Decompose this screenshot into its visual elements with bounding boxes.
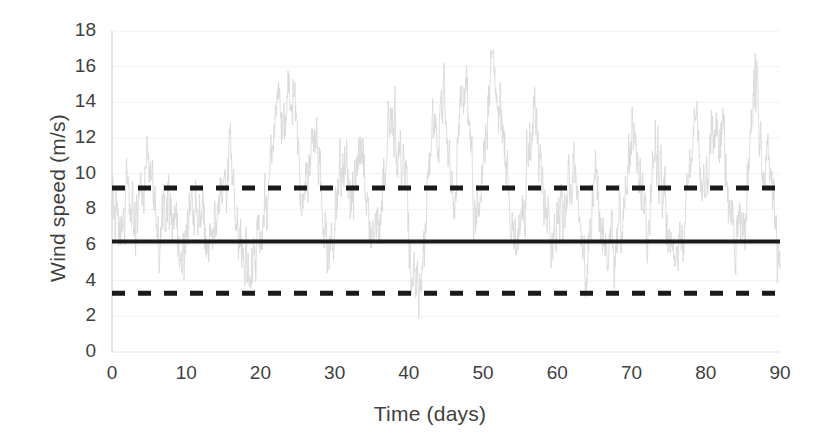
y-tick-label: 0 <box>62 340 96 362</box>
x-tick-label: 70 <box>612 362 652 384</box>
y-tick-label: 16 <box>62 55 96 77</box>
x-tick-label: 90 <box>760 362 800 384</box>
y-tick-label: 6 <box>62 233 96 255</box>
reference-lines <box>112 188 780 293</box>
x-tick-label: 40 <box>389 362 429 384</box>
x-axis-title: Time (days) <box>330 402 530 426</box>
x-tick-label: 60 <box>537 362 577 384</box>
x-tick-label: 50 <box>463 362 503 384</box>
x-tick-label: 80 <box>686 362 726 384</box>
wind-speed-chart: Wind speed (m/s) Time (days) 02468101214… <box>0 0 822 442</box>
y-tick-label: 2 <box>62 304 96 326</box>
y-tick-label: 10 <box>62 162 96 184</box>
y-tick-label: 18 <box>62 19 96 41</box>
data-series-wind-speed <box>112 51 780 319</box>
y-tick-label: 4 <box>62 269 96 291</box>
y-tick-label: 14 <box>62 90 96 112</box>
x-tick-label: 30 <box>315 362 355 384</box>
axis-lines <box>112 31 780 352</box>
x-tick-label: 20 <box>240 362 280 384</box>
gridlines <box>112 31 780 316</box>
y-tick-label: 8 <box>62 197 96 219</box>
x-tick-label: 10 <box>166 362 206 384</box>
y-tick-label: 12 <box>62 126 96 148</box>
x-tick-label: 0 <box>92 362 132 384</box>
